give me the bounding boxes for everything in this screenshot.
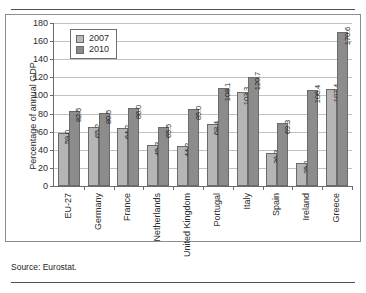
x-label-cell: Netherlands — [142, 191, 172, 243]
x-tick-mark — [114, 186, 115, 190]
bar-2010[interactable]: 65.5 — [158, 127, 169, 186]
x-label-cell: Greece — [321, 191, 351, 243]
x-label-cell: EU-27 — [53, 191, 83, 243]
y-tick-label: 120 — [33, 73, 48, 82]
bar-2010[interactable]: 85.0 — [188, 109, 199, 186]
page-heading-cropped — [0, 0, 366, 5]
x-tick-mark — [84, 186, 85, 190]
y-tick-label: 140 — [33, 55, 48, 64]
chart-figure: Percentage of annual GDP 020406080100120… — [5, 14, 361, 242]
y-tick-label: 20 — [38, 163, 48, 172]
bar-value-label: 170.6 — [343, 26, 352, 44]
x-category-label: United Kingdom — [182, 193, 192, 257]
x-category-label: Italy — [242, 193, 252, 210]
x-category-label: Spain — [271, 193, 281, 216]
x-label-cell: France — [113, 191, 143, 243]
bar-value-label: 69.3 — [283, 120, 292, 134]
figure-page: Percentage of annual GDP 020406080100120… — [0, 0, 366, 293]
x-axis-category-labels: EU-27GermanyFranceNetherlandsUnited King… — [53, 191, 351, 243]
bar-2007[interactable]: 103.3 — [237, 92, 248, 186]
bar-group: 25.1106.4 — [292, 23, 322, 186]
x-label-cell: Portugal — [202, 191, 232, 243]
y-tick-label: 0 — [43, 182, 48, 191]
legend-item-2007: 2007 — [76, 33, 109, 44]
bar-2007[interactable]: 36.3 — [266, 153, 277, 186]
x-tick-mark — [143, 186, 144, 190]
bar-2007[interactable]: 25.1 — [296, 163, 307, 186]
bar-group: 45.365.5 — [143, 23, 173, 186]
legend-label-2010: 2010 — [89, 44, 109, 55]
source-note: Source: Eurostat. — [11, 262, 77, 272]
bar-2007[interactable]: 44.2 — [177, 146, 188, 186]
x-category-label: Portugal — [212, 193, 222, 227]
bar-2010[interactable]: 86.0 — [128, 108, 139, 186]
x-category-label: EU-27 — [63, 193, 73, 219]
bar-value-label: 106.4 — [313, 85, 322, 103]
bar-2007[interactable]: 65.2 — [88, 127, 99, 186]
x-category-label: Greece — [331, 193, 341, 223]
x-tick-mark — [263, 186, 264, 190]
top-divider — [11, 9, 355, 10]
bar-value-label: 82.5 — [74, 108, 83, 122]
legend-item-2010: 2010 — [76, 44, 109, 55]
bar-group: 36.369.3 — [263, 23, 293, 186]
x-label-cell: Ireland — [291, 191, 321, 243]
bar-value-label: 86.0 — [134, 105, 143, 119]
chart-legend: 2007 2010 — [70, 29, 117, 59]
y-tick-label: 100 — [33, 91, 48, 100]
bar-group: 68.4108.1 — [203, 23, 233, 186]
bar-value-label: 85.0 — [194, 106, 203, 120]
x-tick-mark — [322, 186, 323, 190]
bar-2010[interactable]: 80.5 — [99, 113, 110, 186]
x-label-cell: United Kingdom — [172, 191, 202, 243]
y-tick-label: 60 — [38, 127, 48, 136]
y-tick-label: 160 — [33, 37, 48, 46]
bar-2010[interactable]: 106.4 — [307, 90, 318, 186]
bar-value-label: 120.7 — [253, 72, 262, 90]
x-category-label: France — [122, 193, 132, 221]
x-tick-mark — [352, 186, 353, 190]
bar-value-label: 80.5 — [104, 110, 113, 124]
bar-group: 107.4170.6 — [322, 23, 352, 186]
bar-2010[interactable]: 120.7 — [248, 77, 259, 186]
bar-2010[interactable]: 82.5 — [69, 111, 80, 186]
x-tick-mark — [292, 186, 293, 190]
x-tick-mark — [203, 186, 204, 190]
x-category-label: Netherlands — [152, 193, 162, 242]
y-tick-label: 180 — [33, 19, 48, 28]
legend-label-2007: 2007 — [89, 33, 109, 44]
x-category-label: Ireland — [301, 193, 311, 221]
x-label-cell: Germany — [83, 191, 113, 243]
y-tick-label: 40 — [38, 145, 48, 154]
bar-2007[interactable]: 107.4 — [326, 89, 337, 186]
bar-2010[interactable]: 108.1 — [218, 88, 229, 186]
bar-2010[interactable]: 69.3 — [277, 123, 288, 186]
bar-group: 64.286.0 — [114, 23, 144, 186]
x-category-label: Germany — [93, 193, 103, 230]
bar-2007[interactable]: 45.3 — [147, 145, 158, 186]
bar-2007[interactable]: 59.0 — [58, 133, 69, 186]
y-tick-label: 80 — [38, 109, 48, 118]
x-label-cell: Spain — [262, 191, 292, 243]
x-label-cell: Italy — [232, 191, 262, 243]
plot-area: 020406080100120140160180 2007 2010 59.08… — [53, 23, 352, 187]
x-tick-mark — [173, 186, 174, 190]
bar-value-label: 108.1 — [223, 83, 232, 101]
legend-swatch-2007 — [76, 35, 84, 43]
bottom-divider — [11, 282, 355, 283]
bar-value-label: 65.5 — [164, 124, 173, 138]
bar-group: 44.285.0 — [173, 23, 203, 186]
legend-swatch-2010 — [76, 46, 84, 54]
x-tick-mark — [233, 186, 234, 190]
bar-2007[interactable]: 68.4 — [207, 124, 218, 186]
bar-group: 103.3120.7 — [233, 23, 263, 186]
bar-2007[interactable]: 64.2 — [117, 128, 128, 186]
bar-2010[interactable]: 170.6 — [337, 32, 348, 186]
